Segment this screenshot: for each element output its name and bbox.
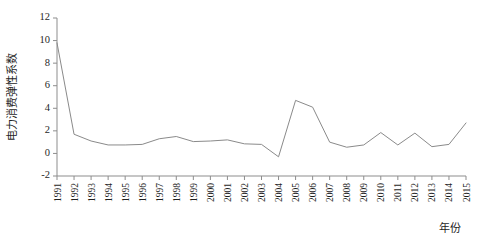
x-tick-label: 2013 xyxy=(427,183,437,202)
x-axis-tick-labels: 1991199219931994199519961997199819992000… xyxy=(53,183,472,202)
x-tick-label: 2004 xyxy=(274,183,284,202)
x-axis-title: 年份 xyxy=(439,221,461,235)
x-tick-label: 2008 xyxy=(342,183,352,202)
x-tick-label: 1993 xyxy=(87,183,97,202)
x-tick-label: 2000 xyxy=(206,183,216,202)
chart-figure: 121086420-2 1991199219931994199519961997… xyxy=(0,0,485,248)
x-tick-label: 1991 xyxy=(53,183,63,202)
x-tick-label: 2007 xyxy=(325,183,335,202)
x-tick-label: 2001 xyxy=(223,183,233,202)
y-tick-label: 10 xyxy=(40,34,51,45)
y-tick-label: 2 xyxy=(45,124,50,135)
x-tick-label: 1994 xyxy=(104,183,114,202)
x-tick-label: 1995 xyxy=(121,183,131,202)
x-tick-label: 2010 xyxy=(376,183,386,202)
y-tick-label: 8 xyxy=(45,57,50,68)
x-tick-label: 1992 xyxy=(70,183,80,202)
x-tick-label: 2014 xyxy=(444,183,454,202)
y-axis-ticks xyxy=(53,18,57,176)
x-tick-label: 1998 xyxy=(172,183,182,202)
y-axis-title: 电力消费弹性系数 xyxy=(5,53,19,141)
y-tick-label: 4 xyxy=(45,102,51,113)
y-tick-label: 6 xyxy=(45,79,50,90)
x-tick-label: 1999 xyxy=(189,183,199,202)
x-tick-label: 2006 xyxy=(308,183,318,202)
x-tick-label: 1997 xyxy=(155,183,165,202)
x-tick-label: 2011 xyxy=(393,183,403,202)
x-tick-label: 2003 xyxy=(257,183,267,202)
y-tick-label: -2 xyxy=(41,169,50,180)
data-series-line xyxy=(57,43,466,157)
x-axis-ticks xyxy=(57,176,466,180)
elasticity-line-chart: 121086420-2 1991199219931994199519961997… xyxy=(0,0,485,248)
y-tick-label: 12 xyxy=(40,11,51,22)
y-tick-label: 0 xyxy=(45,147,50,158)
x-tick-label: 2002 xyxy=(240,183,250,202)
x-tick-label: 2005 xyxy=(291,183,301,202)
x-tick-label: 1996 xyxy=(138,183,148,202)
x-tick-label: 2012 xyxy=(410,183,420,202)
x-tick-label: 2009 xyxy=(359,183,369,202)
y-axis-tick-labels: 121086420-2 xyxy=(40,11,51,180)
x-tick-label: 2015 xyxy=(462,183,472,202)
